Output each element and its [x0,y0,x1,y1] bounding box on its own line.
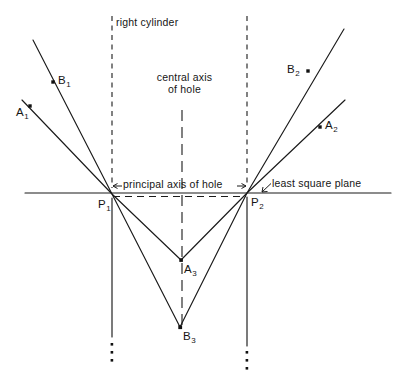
point-label-A1-base: A [16,106,24,118]
point-label-B3: B3 [183,330,196,343]
point-label-A3-base: A [184,263,192,275]
label-right-cylinder: right cylinder [116,17,178,29]
point-label-A2-base: A [325,119,333,131]
point-label-A2: A2 [325,119,338,132]
point-marker-A2 [318,125,321,128]
point-label-A2-sub: 2 [333,125,338,134]
diagram-canvas: right cylinder central axis of hole prin… [0,0,407,379]
principal-axis-left-arrow-icon [113,184,122,189]
point-label-P1-sub: 1 [106,204,111,213]
principal-axis-right-arrow-icon [237,184,246,189]
label-central-axis-line2: of hole [137,84,232,96]
point-label-B1-base: B [58,74,66,86]
point-marker-A1 [28,104,31,107]
point-label-B1-sub: 1 [66,80,71,89]
label-central-axis-of-hole: central axis of hole [137,72,232,96]
label-least-square-plane: least square plane [272,178,361,190]
label-central-axis-line1: central axis [137,72,232,84]
label-principal-axis-of-hole: principal axis of hole [123,179,223,191]
point-label-A3: A3 [184,263,197,276]
point-label-P2: P2 [251,196,264,209]
point-label-P1-base: P [98,198,106,210]
point-marker-A3 [179,258,183,262]
point-label-A3-sub: 3 [192,269,197,278]
point-label-B3-base: B [183,330,191,342]
point-label-A1-sub: 1 [24,112,29,121]
point-label-P2-base: P [251,196,259,208]
ellipsis-left-icon [111,343,114,362]
point-label-B2: B2 [287,63,300,76]
point-label-B2-sub: 2 [295,69,300,78]
point-label-B1: B1 [58,74,71,87]
point-marker-B2 [306,69,309,72]
point-label-B2-base: B [287,63,295,75]
point-label-P1: P1 [98,198,111,211]
point-marker-B1 [51,80,54,83]
point-label-A1: A1 [16,106,29,119]
ellipsis-right-icon [246,351,249,370]
point-label-B3-sub: 3 [191,336,196,345]
point-label-P2-sub: 2 [259,202,264,211]
point-marker-B3 [178,325,182,329]
least-square-plane-leader-icon [262,184,271,193]
